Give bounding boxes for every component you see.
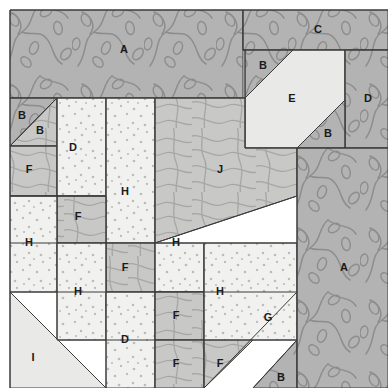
patch-C-label: C: [314, 23, 322, 35]
patch-layer: [10, 10, 388, 388]
patch-J-label: J: [217, 163, 223, 175]
patch-F-left-label: F: [26, 163, 33, 175]
patch-F-lower-right: [155, 292, 204, 340]
patch-D-upper-mid: [57, 98, 106, 196]
patch-H-upper-label: H: [121, 185, 129, 197]
patch-B-upper-right-label: B: [259, 59, 267, 71]
patch-H-lower-right-label: H: [216, 285, 224, 297]
quilt-block-diagram: ACBEDBBBFDHJFHFHHHDFGBAIFF: [0, 0, 388, 388]
patch-F-lower-right-label: F: [173, 309, 180, 321]
patch-H-left: [10, 196, 57, 292]
patch-F-upper-mid-label: F: [75, 210, 82, 222]
patch-G-label: G: [264, 311, 273, 323]
patch-F-center-label: F: [122, 261, 129, 273]
patch-B-bottom-label: B: [277, 371, 285, 383]
quilt-block-canvas: ACBEDBBBFDHJFHFHHHDFGBAIFF: [0, 0, 388, 388]
patch-B-mid-right-label: B: [324, 127, 332, 139]
patch-H-center-label: H: [74, 285, 82, 297]
patch-D-upper-mid-label: D: [69, 141, 77, 153]
patch-A-right-label: A: [340, 261, 348, 273]
patch-E-label: E: [288, 92, 295, 104]
patch-I-label: I: [31, 351, 34, 363]
patch-F-bottom-1-label: F: [173, 357, 180, 369]
patch-F-left: [10, 146, 57, 196]
patch-H-upper: [106, 98, 155, 243]
patch-H-left-label: H: [25, 236, 33, 248]
patch-B-left-lower-label: B: [36, 124, 44, 136]
patch-A-top-label: A: [120, 43, 128, 55]
patch-F-bottom-1: [155, 340, 204, 388]
patch-H-right: [155, 243, 204, 292]
patch-H-right-label: H: [172, 236, 180, 248]
patch-F-upper-mid: [57, 196, 106, 243]
patch-F-bottom-2-label: F: [217, 357, 224, 369]
patch-B-left-upper-label: B: [18, 109, 26, 121]
patch-F-center: [106, 243, 155, 292]
patch-D-lower-label: D: [121, 333, 129, 345]
patch-D-right-label: D: [364, 92, 372, 104]
